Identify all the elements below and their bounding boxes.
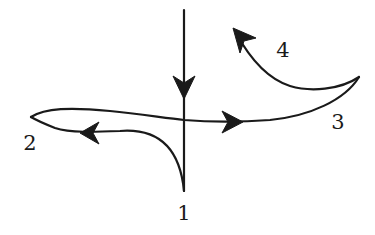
segment-3-to-4 — [236, 33, 359, 89]
label-4: 4 — [276, 40, 289, 61]
segment-2-to-3 — [31, 77, 359, 122]
arrow-left-icon — [80, 122, 99, 144]
segment-1-to-2 — [31, 117, 184, 191]
label-1: 1 — [177, 203, 190, 224]
curve-diagram: 1 2 3 4 — [0, 0, 375, 235]
label-2: 2 — [23, 133, 36, 154]
label-3: 3 — [331, 112, 344, 133]
arrow-up-left-icon — [233, 28, 256, 53]
